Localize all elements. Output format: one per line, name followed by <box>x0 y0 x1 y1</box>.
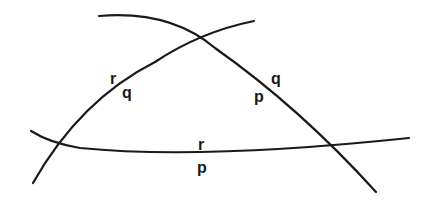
label-bottom-side-r: r <box>198 136 204 153</box>
curve-horizontal <box>31 131 409 152</box>
curved-triangle-diagram: r q q p r p <box>0 0 427 200</box>
curve-upper-left-to-lower-right <box>99 15 376 192</box>
label-right-side-q: q <box>271 70 281 87</box>
label-left-side-r: r <box>110 70 116 87</box>
curve-lower-left-to-upper-right <box>33 21 254 183</box>
label-left-side-q: q <box>122 84 132 101</box>
label-right-side-p: p <box>254 88 264 105</box>
label-bottom-side-p: p <box>197 159 207 176</box>
